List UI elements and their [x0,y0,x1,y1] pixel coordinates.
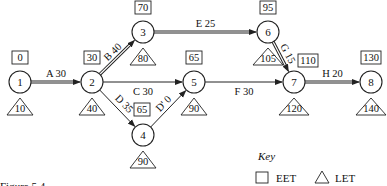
activity-label: B 40 [101,41,123,63]
event-node-4: 46590 [130,103,156,168]
activity-c: C 30 [103,82,182,97]
event-node-3: 37080 [130,1,156,65]
node-number: 5 [191,76,197,88]
eet-value: 65 [137,104,148,115]
eet-value: 130 [363,52,379,63]
key-let-label: LET [335,172,355,184]
let-value: 10 [15,103,26,114]
activity-label: H 20 [322,68,343,79]
activity-h: H 20 [305,68,359,82]
figure-caption: Figure 5.4 [0,180,46,186]
key-title: Key [257,150,275,162]
activity-label: G 15 [278,42,297,65]
eet-value: 0 [17,52,22,63]
eet-value: 95 [263,2,274,13]
legend: Key EET LET [256,150,355,184]
let-value: 105 [260,53,276,64]
eet-value: 110 [300,55,315,66]
eet-value: 30 [87,52,98,63]
event-node-1: 1010 [7,51,33,115]
activity-label: D' 0 [153,94,173,114]
node-number: 8 [368,76,374,88]
node-number: 2 [89,76,95,88]
key-eet-label: EET [276,172,296,184]
eet-value: 65 [189,52,200,63]
node-number: 1 [17,76,23,88]
activity-f: F 30 [205,82,282,97]
node-number: 7 [291,76,297,88]
network-diagram: A 30B 40C 30D 35E 25D' 0F 30G 15H 20 101… [0,0,387,186]
activity-dprime: D' 0 [151,91,186,127]
event-node-8: 8130140 [356,51,386,115]
activity-b: B 40 [100,40,135,74]
let-value: 80 [138,53,149,64]
node-number: 4 [140,129,146,141]
activity-d: D 35 [100,90,136,126]
event-node-2: 23040 [79,51,105,115]
activity-label: F 30 [235,86,254,97]
activity-a: A 30 [31,68,80,82]
let-triangle-icon [315,171,329,183]
activity-e: E 25 [154,18,256,32]
let-value: 140 [363,103,379,114]
event-node-5: 56590 [181,51,207,115]
activity-g: G 15 [273,42,298,72]
let-value: 90 [138,156,149,167]
let-value: 90 [189,103,200,114]
let-value: 120 [286,103,302,114]
node-number: 6 [265,26,271,38]
eet-value: 70 [138,2,149,13]
eet-square-icon [256,172,268,183]
activity-label: C 30 [133,86,153,97]
node-number: 3 [140,26,146,38]
let-value: 40 [87,103,98,114]
activity-label: A 30 [46,68,66,79]
activity-label: E 25 [196,18,216,29]
